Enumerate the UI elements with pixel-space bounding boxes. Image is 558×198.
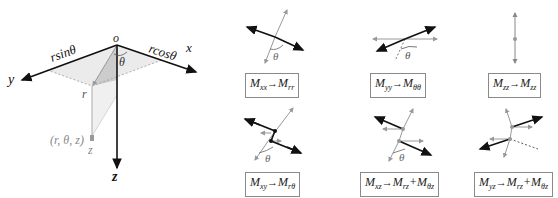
transform-xy-diagram: θ: [225, 105, 320, 165]
transform-label-yy: Myy→Mθθ: [370, 73, 426, 98]
arrow-icon: →: [267, 77, 278, 89]
x-axis-label: x: [185, 40, 192, 55]
svg-text:θ: θ: [405, 49, 411, 61]
arrow-icon: →: [392, 77, 403, 89]
r-label: r: [82, 87, 87, 101]
arrow-icon: →: [509, 77, 520, 89]
transform-label-zz: Mzz→Mzz: [488, 73, 541, 98]
z-label: z: [87, 143, 93, 157]
arrow-icon: →: [267, 176, 278, 188]
point-label: (r, θ, z): [50, 133, 84, 147]
transform-label-xy: Mxy→Mrθ: [245, 172, 300, 197]
theta-label: θ: [119, 55, 125, 69]
cylindrical-coordinate-diagram: o y x z rsinθ rcosθ θ r (r, θ, z) z: [0, 0, 200, 198]
transform-zz-diagram: [480, 5, 550, 65]
origin-label: o: [113, 31, 119, 45]
transform-label-yz: Myz→Mrz+Mθz: [474, 172, 553, 197]
transform-xz-diagram: θ: [355, 105, 450, 165]
transform-label-xz: Mxz→Mrz+Mθz: [360, 172, 439, 197]
transform-xx-diagram: θ: [225, 5, 320, 65]
transform-yz-diagram: [470, 105, 555, 165]
point-marker: [90, 135, 94, 141]
svg-text:θ: θ: [265, 152, 271, 164]
svg-text:θ: θ: [273, 50, 279, 62]
transform-yy-diagram: θ: [355, 5, 450, 65]
arrow-icon: →: [382, 176, 393, 188]
svg-text:θ: θ: [399, 151, 405, 163]
y-axis-label: y: [6, 72, 15, 87]
transform-label-xx: Mxx→Mrr: [245, 73, 299, 98]
z-axis-label: z: [111, 169, 118, 184]
arrow-icon: →: [496, 176, 507, 188]
